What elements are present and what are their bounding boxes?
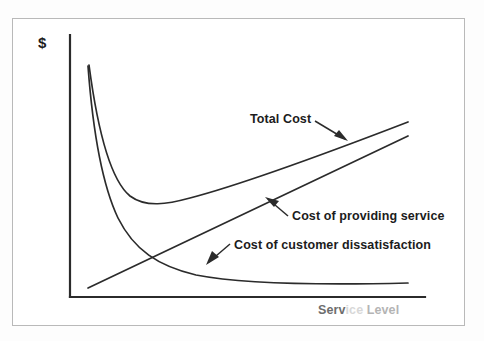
annotation-cost-of-providing-service: Cost of providing service — [292, 209, 445, 223]
chart-plot-area — [0, 0, 484, 341]
x-axis-label-part-faded: ice — [346, 303, 364, 317]
x-axis-label-part-dark: Serv — [318, 303, 346, 317]
dissatisfaction-arrow-head — [206, 251, 219, 265]
annotation-total-cost: Total Cost — [250, 112, 311, 126]
x-axis-label-part-mid: Level — [363, 303, 399, 317]
chart-screenshot: $ Total Cost Cost of providing service C… — [0, 0, 484, 341]
y-axis-label: $ — [38, 34, 46, 51]
annotation-cost-of-customer-dissatisfaction: Cost of customer dissatisfaction — [234, 238, 431, 252]
x-axis-label: Service Level — [318, 303, 399, 317]
series-total-cost — [89, 65, 408, 204]
total-cost-arrow-head — [334, 130, 348, 141]
